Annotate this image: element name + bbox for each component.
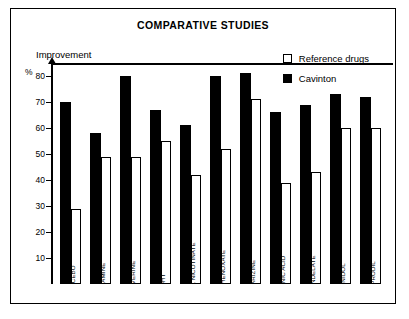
bar-group: XANTHINOL NICOTINATE (176, 63, 206, 284)
y-tick-label: 20 (36, 228, 45, 237)
bar-group: CINNARIZINE (235, 63, 265, 284)
bar-cavinton[interactable] (120, 76, 131, 284)
bar-reference-drug[interactable]: PLACEBO (71, 209, 81, 284)
bar-cavinton[interactable] (300, 105, 311, 284)
y-tick-label: 30 (36, 202, 45, 211)
chart-title: COMPARATIVE STUDIES (11, 19, 395, 31)
bar-reference-drug[interactable]: IFENPRODIL (371, 128, 381, 284)
bar-cavinton[interactable] (330, 94, 341, 284)
category-label: PLACEBO (71, 265, 76, 284)
category-label: XANTHINOL NICOTINATE (191, 242, 196, 284)
bar-cavinton[interactable] (360, 97, 371, 284)
category-label: CINNARIZINE (251, 260, 256, 284)
category-label: NICOTINIC ACID (281, 255, 286, 284)
bar-reference-drug[interactable]: PAPAVERINE (131, 157, 141, 284)
bar-reference-drug[interactable]: NICOTINIC ACID (281, 183, 291, 284)
bar-group: VINCAMINE (86, 63, 116, 284)
bar-cavinton[interactable] (270, 112, 281, 284)
bar-reference-drug[interactable]: MECLOPHENOXATE (221, 149, 231, 284)
chart-figure: COMPARATIVE STUDIES Improvement % Refere… (10, 8, 396, 304)
bar-cavinton[interactable] (180, 125, 191, 284)
bar-reference-drug[interactable]: CINNARIZINE (251, 99, 261, 284)
bar-cavinton[interactable] (150, 110, 161, 284)
bar-group: DHT (146, 63, 176, 284)
category-label: DIFENIDOL (341, 263, 346, 284)
category-label: PAPAVERINE (131, 260, 136, 284)
category-label: DHT (161, 273, 166, 284)
bar-cavinton[interactable] (90, 133, 101, 284)
bar-group: IFENPRODIL (355, 63, 385, 284)
bar-cavinton[interactable] (60, 102, 71, 284)
y-axis-title: Improvement (36, 49, 91, 60)
bar-reference-drug[interactable]: CYCLANDELATE (311, 172, 321, 284)
bar-cavinton[interactable] (210, 76, 221, 284)
y-tick-label: 40 (36, 176, 45, 185)
bar-group: DIFENIDOL (325, 63, 355, 284)
bar-reference-drug[interactable]: XANTHINOL NICOTINATE (191, 175, 201, 284)
bar-groups: PLACEBOVINCAMINEPAPAVERINEDHTXANTHINOL N… (51, 63, 387, 284)
y-tick-label: 80 (36, 72, 45, 81)
bar-group: NICOTINIC ACID (265, 63, 295, 284)
category-label: IFENPRODIL (371, 261, 376, 284)
plot-area: 1020304050607080 PLACEBOVINCAMINEPAPAVER… (51, 63, 387, 284)
bar-cavinton[interactable] (240, 73, 251, 284)
category-label: VINCAMINE (101, 262, 106, 284)
category-label: MECLOPHENOXATE (221, 249, 226, 284)
bar-group: MECLOPHENOXATE (206, 63, 236, 284)
bar-reference-drug[interactable]: DHT (161, 141, 171, 284)
category-label: CYCLANDELATE (311, 255, 316, 284)
bar-group: CYCLANDELATE (295, 63, 325, 284)
y-tick-label: 50 (36, 150, 45, 159)
bar-reference-drug[interactable]: DIFENIDOL (341, 128, 351, 284)
y-tick-label: 60 (36, 124, 45, 133)
y-tick-label: 10 (36, 254, 45, 263)
bar-group: PAPAVERINE (116, 63, 146, 284)
bar-group: PLACEBO (56, 63, 86, 284)
y-axis-unit: % (25, 67, 33, 77)
legend-swatch-hollow-icon (283, 54, 292, 63)
bar-reference-drug[interactable]: VINCAMINE (101, 157, 111, 284)
y-tick-label: 70 (36, 98, 45, 107)
